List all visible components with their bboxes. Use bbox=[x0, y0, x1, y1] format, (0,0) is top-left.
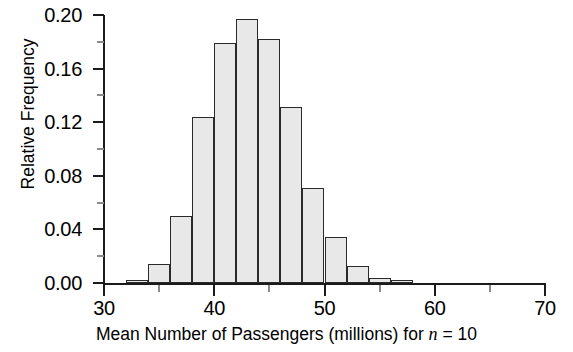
x-axis-title-variable: n bbox=[429, 324, 438, 344]
y-tick-major bbox=[93, 175, 104, 177]
x-tick-minor bbox=[379, 285, 381, 292]
y-tick-minor bbox=[97, 202, 104, 204]
x-tick-label: 70 bbox=[515, 298, 573, 318]
histogram-bar bbox=[369, 278, 391, 283]
y-tick-label: 0.20 bbox=[0, 5, 82, 25]
y-tick-minor bbox=[97, 41, 104, 43]
x-tick-major bbox=[324, 285, 326, 296]
x-tick-major bbox=[434, 285, 436, 296]
x-tick-label: 30 bbox=[74, 298, 134, 318]
y-tick-major bbox=[93, 228, 104, 230]
x-tick-major bbox=[213, 285, 215, 296]
x-tick-major bbox=[103, 285, 105, 296]
histogram-bar bbox=[280, 107, 302, 283]
y-tick-minor bbox=[97, 94, 104, 96]
y-tick-major bbox=[93, 282, 104, 284]
y-tick-major bbox=[93, 14, 104, 16]
y-tick-label: 0.00 bbox=[0, 273, 82, 293]
histogram-figure: 0.000.040.080.120.160.20 3040506070 Rela… bbox=[0, 0, 573, 352]
x-axis-title: Mean Number of Passengers (millions) for… bbox=[0, 324, 573, 344]
y-tick-major bbox=[93, 68, 104, 70]
x-tick-label: 50 bbox=[295, 298, 355, 318]
histogram-bar bbox=[214, 43, 236, 283]
x-tick-minor bbox=[489, 285, 491, 292]
histogram-bar bbox=[192, 117, 214, 283]
histogram-bar bbox=[126, 280, 148, 283]
y-axis-title: Relative Frequency bbox=[18, 0, 38, 234]
x-tick-major bbox=[544, 285, 546, 296]
y-tick-label: 0.08 bbox=[0, 166, 82, 186]
histogram-bar bbox=[347, 266, 369, 283]
histogram-bar bbox=[302, 188, 324, 283]
histogram-bar bbox=[325, 237, 347, 283]
histogram-bar bbox=[236, 19, 258, 283]
histogram-bar bbox=[170, 216, 192, 283]
x-axis-title-text: Mean Number of Passengers (millions) for bbox=[96, 324, 429, 344]
y-tick-minor bbox=[97, 148, 104, 150]
x-tick-minor bbox=[158, 285, 160, 292]
histogram-bar bbox=[258, 39, 280, 283]
histogram-bar bbox=[391, 280, 413, 283]
y-tick-major bbox=[93, 121, 104, 123]
y-tick-label: 0.04 bbox=[0, 219, 82, 239]
y-tick-label: 0.16 bbox=[0, 59, 82, 79]
y-tick-label: 0.12 bbox=[0, 112, 82, 132]
x-tick-label: 40 bbox=[184, 298, 244, 318]
y-tick-minor bbox=[97, 255, 104, 257]
plot-area bbox=[104, 15, 545, 283]
x-axis-title-tail: = 10 bbox=[438, 324, 477, 344]
x-tick-label: 60 bbox=[405, 298, 465, 318]
x-tick-minor bbox=[268, 285, 270, 292]
histogram-bar bbox=[148, 264, 170, 283]
